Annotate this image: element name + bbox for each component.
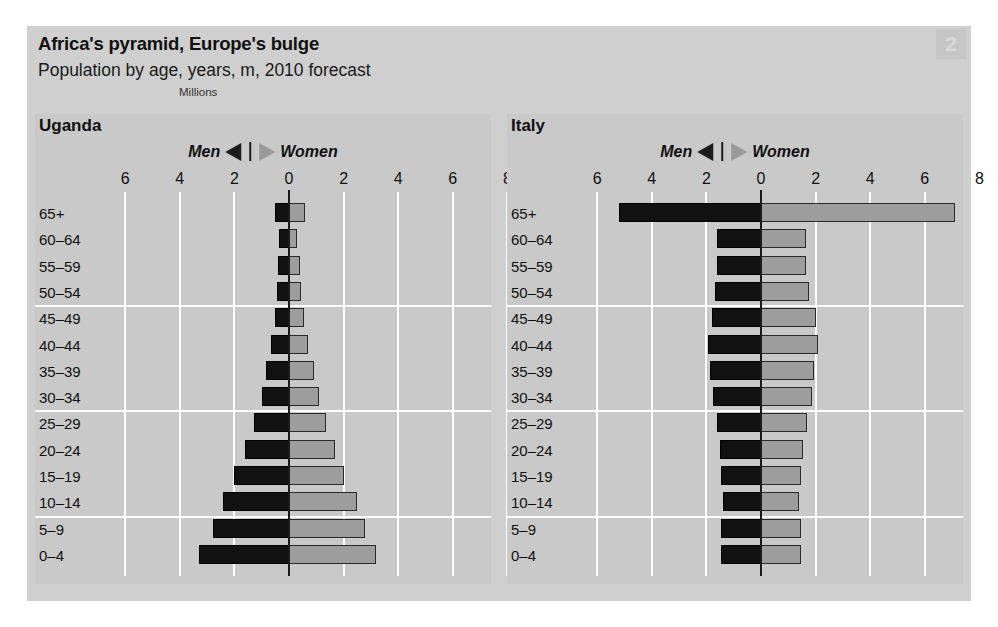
pyramid-row: 50–54: [507, 282, 963, 301]
bar-men: [721, 545, 761, 564]
gridline-horizontal: [35, 305, 491, 307]
legend-divider: [721, 142, 723, 161]
bar-women: [761, 466, 801, 485]
bar-women: [289, 413, 326, 432]
bar-men: [275, 308, 289, 327]
bar-women: [761, 519, 801, 538]
pyramid-row: 50–54: [35, 282, 491, 301]
bar-women: [289, 203, 305, 222]
age-group-label: 60–64: [511, 232, 553, 247]
legend-label-women: Women: [280, 143, 337, 161]
bar-women: [761, 492, 799, 511]
bar-men: [266, 361, 289, 380]
x-tick-mark: [651, 192, 653, 200]
age-group-label: 40–44: [511, 338, 553, 353]
pyramid-row: 25–29: [35, 413, 491, 432]
pyramid-row: 35–39: [507, 361, 963, 380]
bar-women: [761, 203, 955, 222]
x-tick-label: 0: [285, 170, 294, 188]
age-group-label: 0–4: [39, 548, 64, 563]
x-tick-mark: [869, 192, 871, 200]
bar-women: [761, 308, 816, 327]
figure-container: Africa's pyramid, Europe's bulge Populat…: [27, 26, 971, 601]
bar-women: [761, 229, 806, 248]
x-tick-label: 6: [448, 170, 457, 188]
x-tick-mark: [343, 192, 345, 200]
bar-men: [223, 492, 289, 511]
bar-women: [289, 387, 319, 406]
bar-women: [761, 413, 807, 432]
x-tick-mark: [760, 190, 762, 200]
pyramid-row: 55–59: [507, 256, 963, 275]
age-group-label: 55–59: [511, 259, 553, 274]
pyramid-row: 35–39: [35, 361, 491, 380]
age-group-label: 0–4: [511, 548, 536, 563]
bar-men: [717, 229, 761, 248]
x-tick-label: 6: [121, 170, 130, 188]
pyramid-row: 15–19: [507, 466, 963, 485]
bar-women: [761, 545, 801, 564]
age-group-label: 50–54: [511, 285, 553, 300]
x-tick-label: 6: [593, 170, 602, 188]
bar-men: [234, 466, 289, 485]
pyramid-row: 65+: [507, 203, 963, 222]
pyramid-row: 40–44: [35, 335, 491, 354]
bar-men: [213, 519, 289, 538]
gridline-horizontal: [507, 516, 963, 518]
x-tick-mark: [596, 192, 598, 200]
bar-men: [619, 203, 761, 222]
pyramid-row: 20–24: [35, 440, 491, 459]
age-group-label: 20–24: [39, 443, 81, 458]
legend-divider: [249, 142, 251, 161]
chart-subtitle: Population by age, years, m, 2010 foreca…: [38, 60, 371, 81]
age-group-label: 35–39: [39, 364, 81, 379]
x-axis-italy: 64202468: [507, 170, 963, 200]
legend-label-women: Women: [752, 143, 809, 161]
gridline-horizontal: [507, 305, 963, 307]
bar-men: [199, 545, 289, 564]
x-tick-label: 6: [920, 170, 929, 188]
x-tick-mark: [179, 192, 181, 200]
legend-uganda: Men Women: [35, 142, 491, 166]
gridline-vertical: [978, 200, 980, 576]
bar-men: [712, 308, 761, 327]
x-tick-label: 2: [702, 170, 711, 188]
bar-men: [715, 282, 761, 301]
age-group-label: 35–39: [511, 364, 553, 379]
age-group-label: 30–34: [511, 390, 553, 405]
bar-women: [289, 361, 314, 380]
x-tick-mark: [815, 192, 817, 200]
pyramid-row: 60–64: [507, 229, 963, 248]
bar-women: [761, 361, 814, 380]
age-group-label: 45–49: [511, 311, 553, 326]
x-tick-mark: [233, 192, 235, 200]
x-tick-mark: [705, 192, 707, 200]
age-group-label: 55–59: [39, 259, 81, 274]
x-tick-mark: [978, 192, 980, 200]
pyramid-row: 65+: [35, 203, 491, 222]
zero-axis-line: [288, 200, 290, 576]
bar-men: [708, 335, 761, 354]
bar-women: [289, 545, 376, 564]
zero-axis-line: [760, 200, 762, 576]
pyramid-row: 60–64: [35, 229, 491, 248]
bar-men: [713, 387, 761, 406]
age-group-label: 10–14: [39, 495, 81, 510]
bar-women: [761, 440, 803, 459]
bar-men: [721, 466, 761, 485]
gridline-horizontal: [35, 410, 491, 412]
pyramid-row: 15–19: [35, 466, 491, 485]
age-group-label: 60–64: [39, 232, 81, 247]
bar-men: [262, 387, 289, 406]
bars-area-uganda: 65+60–6455–5950–5445–4940–4435–3930–3425…: [35, 200, 491, 576]
pyramid-row: 5–9: [507, 519, 963, 538]
bars-area-italy: 65+60–6455–5950–5445–4940–4435–3930–3425…: [507, 200, 963, 576]
bar-women: [289, 466, 344, 485]
page-number-badge: 2: [936, 29, 966, 59]
x-tick-label: 4: [175, 170, 184, 188]
age-group-label: 15–19: [511, 469, 553, 484]
gridline-horizontal: [35, 516, 491, 518]
pyramid-row: 30–34: [35, 387, 491, 406]
x-tick-mark: [288, 190, 290, 200]
age-group-label: 50–54: [39, 285, 81, 300]
